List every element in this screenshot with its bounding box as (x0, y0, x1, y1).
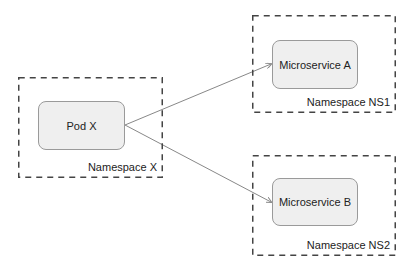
node-pod-x: Pod X (38, 101, 125, 150)
node-label: Pod X (67, 120, 97, 132)
node-label: Microservice B (279, 196, 351, 208)
node-label: Microservice A (279, 59, 351, 71)
namespace-label: Namespace NS1 (307, 96, 390, 108)
namespace-label: Namespace X (88, 161, 157, 173)
node-microservice-a: Microservice A (272, 40, 358, 89)
namespace-label: Namespace NS2 (307, 239, 390, 251)
node-microservice-b: Microservice B (272, 178, 358, 226)
